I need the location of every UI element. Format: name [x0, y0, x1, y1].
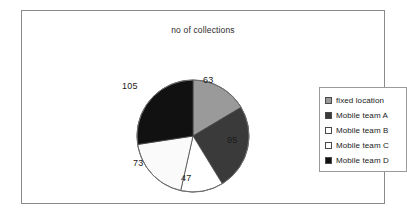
legend-swatch-icon — [325, 127, 332, 134]
chart-frame: no of collections 63 95 47 73 105 fixed … — [21, 10, 385, 204]
legend-item-label: Mobile team B — [336, 126, 388, 135]
legend-swatch-icon — [325, 142, 332, 149]
legend-item-mobile-team-a[interactable]: Mobile team A — [325, 108, 406, 123]
legend-item-label: fixed location — [336, 96, 384, 105]
legend-item-label: Mobile team C — [336, 141, 389, 150]
pie-slice[interactable] — [137, 80, 193, 144]
legend-swatch-icon — [325, 112, 332, 119]
legend-item-label: Mobile team D — [336, 156, 389, 165]
data-label-mobile-team-b: 47 — [181, 173, 191, 183]
chart-title: no of collections — [22, 25, 384, 35]
legend-swatch-icon — [325, 97, 332, 104]
data-label-mobile-team-c: 73 — [133, 158, 143, 168]
data-label-fixed-location: 63 — [203, 75, 213, 85]
legend-item-mobile-team-c[interactable]: Mobile team C — [325, 138, 406, 153]
screenshot-root: no of collections 63 95 47 73 105 fixed … — [0, 0, 407, 214]
legend-item-label: Mobile team A — [336, 111, 388, 120]
legend-item-mobile-team-d[interactable]: Mobile team D — [325, 153, 406, 168]
legend-swatch-icon — [325, 157, 332, 164]
legend-item-mobile-team-b[interactable]: Mobile team B — [325, 123, 406, 138]
data-label-mobile-team-d: 105 — [122, 81, 138, 91]
data-label-mobile-team-a: 95 — [227, 135, 237, 145]
legend-item-fixed-location[interactable]: fixed location — [325, 93, 406, 108]
chart-legend: fixed location Mobile team A Mobile team… — [319, 87, 407, 172]
